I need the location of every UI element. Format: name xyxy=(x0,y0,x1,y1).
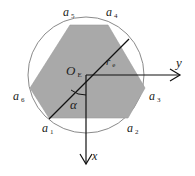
label-a2: a2 xyxy=(127,122,139,136)
label-a1: a1 xyxy=(42,122,54,136)
hexagon-circle-diagram xyxy=(0,0,195,176)
label-x-axis: x xyxy=(92,150,97,162)
label-a4: a4 xyxy=(106,6,118,20)
label-y-axis: y xyxy=(176,56,182,69)
label-a3: a3 xyxy=(149,90,161,104)
label-a5: a5 xyxy=(63,6,75,20)
hexagon-shape xyxy=(30,25,145,118)
label-angle-alpha: α xyxy=(70,98,77,111)
label-radius: re xyxy=(106,56,115,69)
label-origin: OE xyxy=(66,64,82,79)
label-a6: a6 xyxy=(13,90,25,104)
